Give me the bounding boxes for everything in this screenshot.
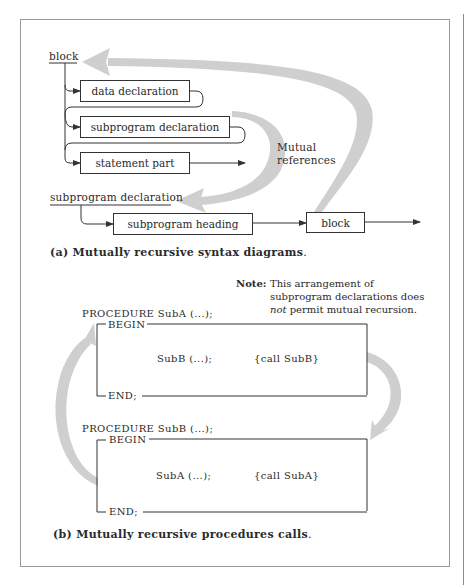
caption-a-tail: . [303, 246, 307, 259]
data-declaration-box: data declaration [80, 80, 190, 102]
block-box: block [306, 212, 365, 233]
proc-b-header: PROCEDURE SubB (...); [82, 424, 213, 434]
caption-a-prefix: (a) [50, 246, 68, 259]
proc-b-call: SubA (...); [156, 471, 211, 481]
block-box-label: block [321, 217, 350, 229]
note-line-2: subprogram declarations does [270, 290, 424, 303]
proc-a-header: PROCEDURE SubA (...); [82, 309, 213, 319]
caption-a-text: Mutually recursive syntax diagrams [73, 246, 304, 259]
proc-b-end: END; [109, 507, 138, 517]
proc-a-comment: {call SubB} [254, 354, 319, 364]
note-emphasis: not [270, 304, 286, 315]
data-declaration-label: data declaration [91, 85, 178, 97]
subprogram-declaration-label: subprogram declaration [50, 192, 183, 203]
note: Note: This arrangement of subprogram dec… [236, 277, 446, 319]
proc-a-end: END; [108, 391, 137, 401]
recursion-arrow-left [55, 323, 98, 486]
caption-b-prefix: (b) [53, 528, 72, 541]
caption-b: (b) Mutually recursive procedures calls. [53, 528, 312, 541]
note-line-3-rest: permit mutual recursion. [286, 304, 416, 315]
statement-part-box: statement part [80, 152, 190, 174]
note-body: This arrangement of subprogram declarati… [270, 277, 424, 316]
subprogram-heading-label: subprogram heading [127, 218, 238, 230]
subprogram-heading-box: subprogram heading [113, 213, 253, 235]
proc-a-call: SubB (...); [157, 354, 212, 364]
note-line-1: This arrangement of [270, 277, 424, 290]
caption-b-text: Mutually recursive procedures calls [76, 528, 308, 541]
proc-b-begin: BEGIN [109, 435, 146, 445]
block-label: block [49, 51, 79, 62]
subprogram-declaration-box: subprogram declaration [80, 116, 230, 138]
mutual-references-line1: Mutual [277, 142, 316, 153]
proc-b-comment: {call SubA} [254, 471, 319, 481]
note-line-3: not permit mutual recursion. [270, 303, 424, 316]
caption-b-tail: . [308, 528, 312, 541]
caption-a: (a) Mutually recursive syntax diagrams. [50, 246, 307, 259]
proc-a-begin: BEGIN [108, 320, 145, 330]
mutual-references-line2: references [277, 155, 336, 166]
statement-part-label: statement part [95, 157, 174, 169]
note-key: Note: [236, 277, 266, 290]
recursion-arrow-right [367, 352, 401, 440]
subprogram-declaration-box-label: subprogram declaration [91, 121, 220, 133]
